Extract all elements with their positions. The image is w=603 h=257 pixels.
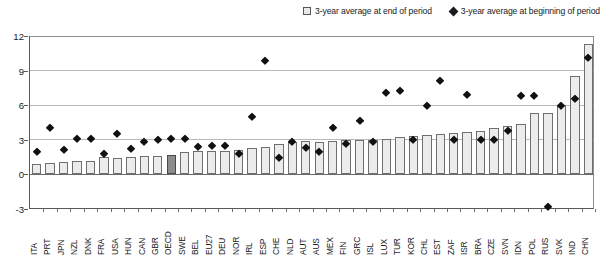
x-axis-label-BRA: BRA [473,238,483,255]
bar-CZE [489,128,498,174]
x-axis-label-AUS: AUS [311,238,321,255]
x-axis-label-ISL: ISL [365,243,375,255]
plot-frame [30,36,594,209]
plot-area [29,36,594,209]
x-axis-label-NOR: NOR [231,237,241,255]
x-axis-label-EU27: EU27 [204,235,214,255]
diamond-marker-USA [113,130,122,139]
x-axis-label-CHE: CHE [271,238,281,255]
y-tick-label-12: 12 [13,31,24,42]
x-axis-label-IND: IND [567,241,577,255]
bar-IND [570,76,579,174]
bar-CAN [140,156,149,174]
bar-DEU [220,151,229,174]
diamond-marker-BEL [194,142,203,151]
x-axis-label-CHL: CHL [419,239,429,255]
x-axis-label-BEL: BEL [190,240,200,255]
bar-GBR [153,156,162,174]
x-axis-label-GBR: GBR [150,237,160,255]
diamond-marker-IRL [247,112,256,121]
bar-RUS [543,113,552,174]
x-tick-mark-CHN [595,209,596,212]
y-tick-mark-3 [24,140,28,141]
bar-MEX [328,141,337,174]
x-axis-label-ITA: ITA [29,243,39,255]
x-axis-label-SVN: SVN [500,238,510,255]
x-axis-label-OECD: OECD [163,231,173,255]
x-axis-label-SVK: SVK [554,239,564,255]
bar-GRC [355,140,364,175]
bar-ESP [261,147,270,175]
x-axis-label-AUT: AUT [298,239,308,255]
diamond-marker-TUR [395,87,404,96]
bar-USA [113,158,122,174]
x-axis-label-NLD: NLD [285,239,295,255]
bar-DNK [86,161,95,175]
diamond-marker-POL [530,91,539,100]
chart-legend: 3-year average at end of period 3-year a… [0,3,603,19]
legend-label-bar-series: 3-year average at end of period [315,6,432,16]
bar-TUR [395,137,404,174]
diamond-marker-GBR [153,135,162,144]
x-axis-label-CAN: CAN [137,238,147,255]
square-swatch-icon [303,7,311,15]
diamond-marker-IDN [516,91,525,100]
y-tick-mark-0 [24,174,28,175]
diamond-marker-HUN [126,144,135,153]
diamond-marker-DNK [86,134,95,143]
diamond-marker-ITA [32,148,41,157]
y-tick-label--3: -3 [15,204,24,215]
x-axis-label-MEX: MEX [325,237,335,255]
bar-NZL [72,161,81,175]
x-axis-label-USA: USA [110,238,120,255]
bar-IDN [516,124,525,175]
bar-LUX [382,139,391,175]
x-axis-label-JPN: JPN [56,240,66,255]
x-axis-label-EST: EST [432,239,442,255]
diamond-marker-EST [436,76,445,85]
x-axis-label-KOR: KOR [406,237,416,255]
x-axis-label-CZE: CZE [486,239,496,255]
diamond-marker-SWE [180,134,189,143]
y-tick-mark-12 [24,36,28,37]
bar-CHL [422,135,431,174]
diamond-marker-JPN [59,146,68,155]
diamond-marker-ESP [261,57,270,66]
x-axis-label-SWE: SWE [177,236,187,255]
x-axis-label-ESP: ESP [258,239,268,255]
chart-figure: 3-year average at end of period 3-year a… [0,0,603,257]
x-axis-label-DNK: DNK [83,238,93,255]
x-axis-label-IRL: IRL [244,242,254,255]
bar-JPN [59,162,68,175]
bar-SWE [180,152,189,174]
x-axis-label-GRC: GRC [352,237,362,255]
diamond-marker-MEX [328,124,337,133]
legend-item-diamond-series: 3-year average at beginning of period [450,6,600,16]
diamond-marker-DEU [221,141,230,150]
x-axis-label-ZAF: ZAF [446,240,456,255]
x-axis-label-PRT: PRT [42,239,52,255]
bar-EST [436,134,445,174]
bar-OECD [167,155,176,175]
diamond-marker-CHL [422,102,431,111]
bar-CHN [584,44,593,174]
x-axis-label-FRA: FRA [96,239,106,255]
bar-ITA [32,164,41,174]
x-axis-label-TUR: TUR [392,238,402,255]
bar-EU27 [207,151,216,174]
bar-HUN [126,157,135,174]
x-axis-label-POL: POL [527,239,537,255]
gridline-6 [30,105,594,106]
diamond-marker-OECD [167,134,176,143]
y-axis: -3036912 [0,36,29,209]
y-tick-mark-9 [24,71,28,72]
bar-NLD [288,142,297,174]
x-axis-label-NZL: NZL [69,240,79,255]
legend-item-bar-series: 3-year average at end of period [303,6,432,16]
x-axis-labels: ITAPRTJPNNZLDNKFRAUSAHUNCANGBROECDSWEBEL… [29,210,594,257]
diamond-marker-LUX [382,88,391,97]
diamond-marker-GRC [355,117,364,126]
x-axis-label-ISR: ISR [459,241,469,255]
y-tick-mark-6 [24,105,28,106]
bar-PRT [45,163,54,175]
